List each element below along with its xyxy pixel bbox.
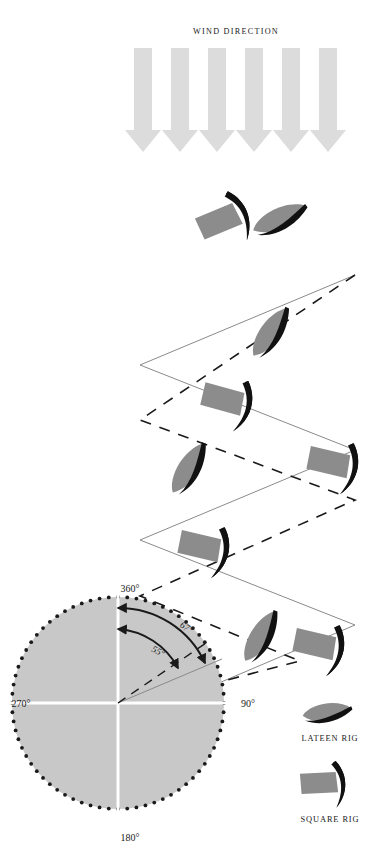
compass-tick: [48, 620, 52, 624]
compass-tick: [216, 737, 220, 741]
compass-rose: 360° 90° 180° 270° 67° 55°: [7, 583, 255, 843]
compass-tick: [161, 797, 165, 801]
boat-lateen-rig: [249, 198, 312, 241]
compass-tick: [98, 805, 102, 809]
wind-arrow: [236, 48, 272, 152]
compass-tick: [35, 769, 39, 773]
compass-tick: [208, 648, 212, 652]
boat-lateen-rig: [163, 438, 215, 499]
compass-label-north: 360°: [121, 583, 140, 594]
legend-label-square: SQUARE RIG: [300, 815, 359, 824]
compass-label-south: 180°: [121, 832, 140, 843]
compass-tick: [35, 633, 39, 637]
compass-tick: [135, 805, 139, 809]
compass-tick: [41, 626, 45, 630]
compass-tick: [107, 596, 111, 600]
compass-tick: [169, 793, 173, 797]
compass-tick: [63, 793, 67, 797]
compass-tick: [135, 597, 139, 601]
compass-tick: [20, 656, 24, 660]
wind-arrow-group: [125, 48, 346, 152]
compass-tick: [11, 692, 15, 696]
boat-group: [163, 188, 364, 679]
compass-tick: [89, 803, 93, 807]
compass-tick: [203, 762, 207, 766]
compass-tick: [71, 797, 75, 801]
compass-tick: [14, 729, 18, 733]
compass-tick: [125, 807, 129, 811]
boat-lateen-rig: [236, 606, 288, 667]
compass-tick: [197, 633, 201, 637]
wind-direction-label: WIND DIRECTION: [193, 27, 279, 36]
compass-tick: [218, 729, 222, 733]
compass-tick: [24, 754, 28, 758]
boat-square-rig: [300, 432, 364, 497]
compass-tick: [12, 683, 16, 687]
compass-tick: [14, 674, 18, 678]
compass-tick: [48, 782, 52, 786]
compass-tick: [80, 801, 84, 805]
boat-lateen-rig: [245, 302, 299, 362]
compass-tick: [71, 605, 75, 609]
compass-tick: [89, 599, 93, 603]
compass-tick: [98, 597, 102, 601]
wind-arrow: [273, 48, 309, 152]
legend-label-lateen: LATEEN RIG: [301, 734, 358, 743]
wind-arrow: [162, 48, 198, 152]
compass-tick: [220, 720, 224, 724]
compass-tick: [55, 788, 59, 792]
compass-tick: [24, 648, 28, 652]
compass-tick: [197, 769, 201, 773]
compass-tick: [177, 788, 181, 792]
legend-swatch-square: [300, 761, 345, 808]
compass-tick: [16, 737, 20, 741]
boat-square-rig: [286, 614, 350, 679]
compass-tick: [11, 710, 15, 714]
compass-label-east: 90°: [241, 698, 255, 709]
compass-tick: [161, 605, 165, 609]
compass-tick: [222, 692, 226, 696]
compass-tick: [20, 746, 24, 750]
compass-tick: [12, 720, 16, 724]
compass-tick: [191, 776, 195, 780]
compass-tick: [16, 665, 20, 669]
compass-tick: [41, 776, 45, 780]
legend-swatch-lateen: [302, 701, 354, 725]
wind-arrow: [199, 48, 235, 152]
compass-tick: [125, 596, 129, 600]
compass-tick: [218, 674, 222, 678]
compass-tick: [80, 601, 84, 605]
compass-tick: [55, 614, 59, 618]
compass-tick: [184, 782, 188, 786]
compass-tick: [107, 807, 111, 811]
boat-square-rig: [171, 516, 235, 581]
legend: LATEEN RIG SQUARE RIG: [300, 701, 360, 824]
compass-label-west: 270°: [12, 698, 31, 709]
compass-tick: [152, 601, 156, 605]
boat-square-rig: [194, 369, 259, 435]
compass-tick: [203, 640, 207, 644]
compass-tick: [152, 801, 156, 805]
compass-tick: [169, 609, 173, 613]
compass-tick: [216, 665, 220, 669]
compass-tick: [208, 754, 212, 758]
compass-tick: [212, 746, 216, 750]
compass-tick: [144, 599, 148, 603]
compass-tick: [222, 710, 226, 714]
compass-tick: [177, 614, 181, 618]
compass-tick: [212, 656, 216, 660]
diagram-canvas: WIND DIRECTION: [0, 0, 381, 858]
boat-square-rig: [190, 188, 256, 255]
sailing-tacking-diagram: WIND DIRECTION: [0, 0, 381, 858]
compass-tick: [29, 640, 33, 644]
compass-tick: [63, 609, 67, 613]
compass-tick: [220, 683, 224, 687]
compass-tick: [29, 762, 33, 766]
wind-arrow: [125, 48, 161, 152]
compass-tick: [144, 803, 148, 807]
wind-arrow: [310, 48, 346, 152]
